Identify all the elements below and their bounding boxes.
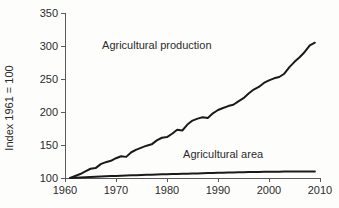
y-tick-label: 300 — [40, 40, 58, 52]
annotation-agricultural-area: Agricultural area — [183, 148, 264, 160]
y-tick-label: 150 — [40, 139, 58, 151]
x-tick-label: 2010 — [308, 184, 332, 196]
x-tick-label: 2000 — [257, 184, 281, 196]
y-tick-label: 350 — [40, 7, 58, 19]
y-axis: 100150200250300350 — [40, 7, 65, 184]
y-tick-label: 250 — [40, 73, 58, 85]
y-tick-label: 100 — [40, 172, 58, 184]
y-axis-title-text: Index 1961 = 100 — [3, 65, 15, 150]
x-tick-label: 1960 — [53, 184, 77, 196]
series-line-agricultural-area — [70, 171, 315, 178]
x-axis: 196019701980199020002010 — [53, 178, 332, 196]
series-annotations: Agricultural productionAgricultural area — [102, 39, 264, 160]
x-tick-label: 1990 — [206, 184, 230, 196]
agricultural-index-line-chart: Index 1961 = 100 100150200250300350 1960… — [0, 0, 339, 208]
x-tick-label: 1980 — [155, 184, 179, 196]
y-axis-title: Index 1961 = 100 — [3, 65, 15, 150]
annotation-agricultural-production: Agricultural production — [102, 39, 211, 51]
chart-figure: Index 1961 = 100 100150200250300350 1960… — [0, 0, 339, 208]
x-tick-label: 1970 — [104, 184, 128, 196]
y-tick-label: 200 — [40, 106, 58, 118]
